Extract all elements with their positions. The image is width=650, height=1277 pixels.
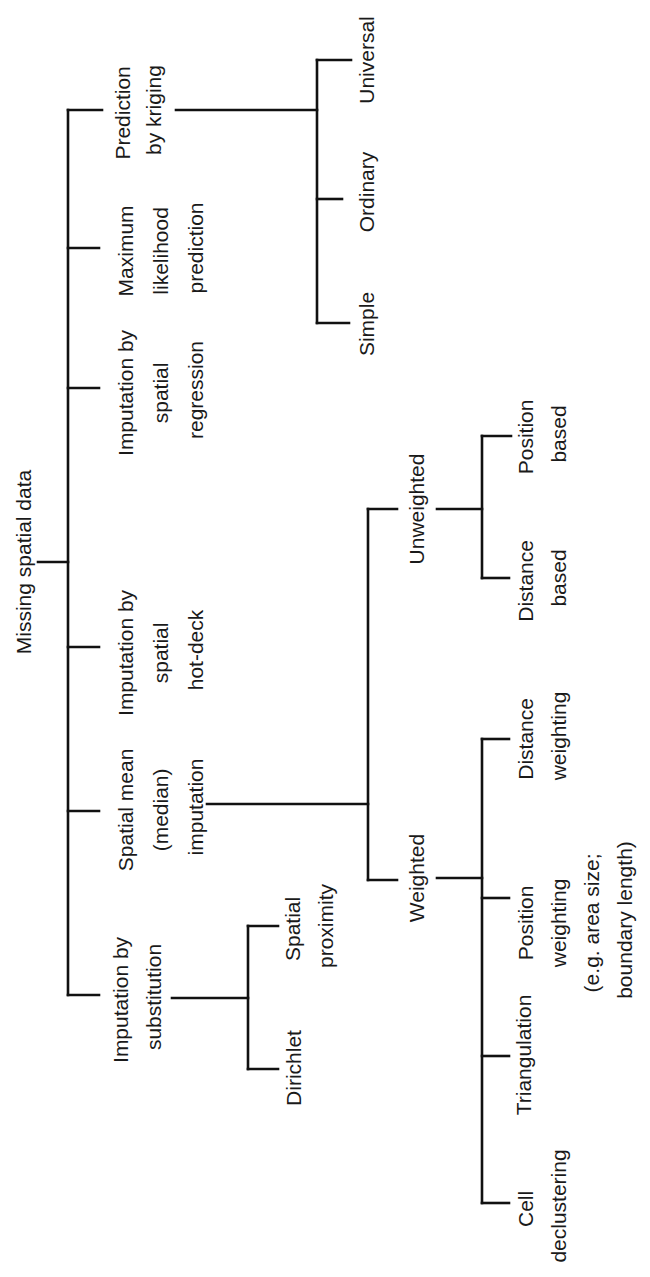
svg-text:Position weighting: Position weighting (e.g. area size; boun… [514,841,636,999]
node-label-line: Prediction [111,66,134,159]
node-label-line: regression [184,341,207,439]
node-label-line: by kriging [142,65,165,155]
svg-text:Distance based: Distance based [514,534,570,622]
node-label-line: substitution [142,944,165,1050]
node-label: Simple [355,292,378,356]
node-label: Missing spatial data [12,469,35,654]
node-cell-declustering: Cell declustering [514,1149,570,1262]
node-label-line: prediction [184,202,207,293]
node-label-line: (e.g. area size; [580,853,603,992]
node-label-line: likelihood [149,207,172,295]
node-simple: Simple [355,292,378,356]
svg-text:Cell declustering: Cell declustering [514,1149,570,1262]
svg-text:Prediction by kriging: Prediction by kriging [111,60,165,159]
node-label: Universal [355,16,378,104]
node-label-line: spatial [149,623,172,684]
node-unweighted: Unweighted [405,454,428,565]
node-label-line: proximity [314,883,337,968]
node-label: Unweighted [405,454,428,565]
node-label-line: Distance [514,540,537,622]
hierarchy-diagram: Missing spatial data Prediction by krigi… [0,0,650,1277]
node-mean: Spatial mean (median) imputation [114,743,207,871]
node-hotdeck: Imputation by spatial hot-deck [114,584,207,716]
svg-text:Imputation by spatial: Imputation by spatial regression [114,324,207,456]
node-label-line: Cell [514,1191,537,1227]
node-maxlik: Maximum likelihood prediction [114,200,207,297]
node-position-weighting: Position weighting (e.g. area size; boun… [514,841,636,999]
node-distance-based: Distance based [514,534,570,622]
node-label-line: Spatial [281,897,304,961]
node-label-line: boundary length) [613,841,636,999]
node-universal: Universal [355,16,378,104]
node-label-line: based [547,549,570,606]
node-label-line: Maximum [114,205,137,296]
node-label-line: (median) [149,768,172,851]
node-substitution: Imputation by substitution [109,931,165,1063]
node-label-line: Spatial mean [114,749,137,872]
svg-text:Imputation by substituti: Imputation by substitution [109,931,165,1063]
node-distance-weighting: Distance weighting [514,692,570,782]
node-spatial-proximity: Spatial proximity [281,883,337,968]
node-label-line: imputation [184,759,207,856]
node-label-line: spatial [149,363,172,424]
svg-text:Imputation by spatial: Imputation by spatial hot-deck [114,584,207,716]
svg-text:Position based: Position based [514,394,570,475]
node-label-line: hot-deck [184,609,207,690]
node-label-line: Position [514,400,537,475]
node-label-line: Imputation by [114,329,137,456]
node-kriging: Prediction by kriging [111,60,165,159]
node-label: Weighted [405,834,428,922]
node-label: Dirichlet [282,1030,305,1106]
node-label-line: weighting [547,692,570,782]
svg-text:Spatial mean (median): Spatial mean (median) imputation [114,743,207,871]
node-dirichlet: Dirichlet [282,1030,305,1106]
node-label-line: based [547,405,570,462]
node-label-line: Distance [514,698,537,780]
node-position-based: Position based [514,394,570,475]
node-label-line: Imputation by [109,936,132,1063]
svg-text:Spatial proximity: Spatial proximity [281,883,337,968]
node-label-line: declustering [547,1149,570,1262]
node-label: Ordinary [355,151,378,232]
node-root: Missing spatial data [12,469,35,654]
node-regression: Imputation by spatial regression [114,324,207,456]
svg-text:Maximum likelihood: Maximum likelihood prediction [114,200,207,297]
node-label-line: Imputation by [114,589,137,716]
svg-text:Distance weighting: Distance weighting [514,692,570,782]
node-triangulation: Triangulation [512,995,535,1116]
node-label-line: Position [514,886,537,961]
node-ordinary: Ordinary [355,151,378,232]
node-label-line: weighting [547,879,570,969]
node-weighted: Weighted [405,834,428,922]
node-label: Triangulation [512,995,535,1116]
